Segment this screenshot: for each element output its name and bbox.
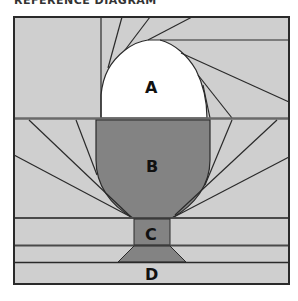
reference-diagram: A B C D bbox=[0, 0, 298, 301]
label-a: A bbox=[145, 78, 158, 97]
label-b: B bbox=[146, 157, 158, 176]
section-d: D bbox=[145, 265, 158, 284]
section-c: C bbox=[134, 219, 170, 245]
label-d: D bbox=[145, 265, 158, 284]
label-c: C bbox=[145, 225, 157, 244]
